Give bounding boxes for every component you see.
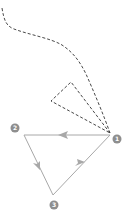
node-3-label: 3 bbox=[52, 201, 56, 208]
dashed-triangle-path bbox=[51, 82, 110, 133]
arrow-2-3-icon bbox=[33, 161, 40, 170]
node-2: 2 bbox=[11, 124, 20, 133]
edge-3-1 bbox=[53, 135, 110, 195]
cycle-diagram: 1 2 3 bbox=[0, 0, 129, 216]
node-1: 1 bbox=[113, 135, 122, 144]
node-3: 3 bbox=[50, 201, 59, 210]
dashed-curve-path bbox=[2, 8, 110, 133]
node-1-label: 1 bbox=[115, 135, 119, 142]
node-2-label: 2 bbox=[13, 124, 17, 131]
arrow-3-1-icon bbox=[75, 159, 85, 166]
